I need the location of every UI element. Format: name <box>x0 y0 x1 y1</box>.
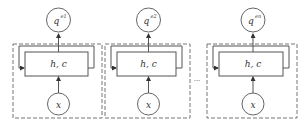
output-label: q <box>144 16 150 26</box>
lstm-cell-1: h, cqe1x <box>13 8 102 118</box>
lstm-unrolled-diagram: h, cqe1xh, cqe2xh, cqenx ··· <box>0 0 306 126</box>
output-label: q <box>248 16 254 26</box>
hidden-state-label: h, c <box>140 59 157 69</box>
input-label: x <box>146 100 151 110</box>
lstm-cell-3: h, cqenx <box>207 8 297 118</box>
hidden-state-label: h, c <box>50 59 67 69</box>
input-label: x <box>250 100 255 110</box>
output-superscript: en <box>255 13 261 19</box>
ellipsis: ··· <box>194 77 201 85</box>
lstm-cell-2: h, cqe2x <box>105 8 190 118</box>
output-label: q <box>54 16 60 26</box>
output-superscript: e2 <box>151 13 157 19</box>
output-superscript: e1 <box>61 13 67 19</box>
hidden-state-label: h, c <box>245 59 262 69</box>
input-label: x <box>56 100 61 110</box>
